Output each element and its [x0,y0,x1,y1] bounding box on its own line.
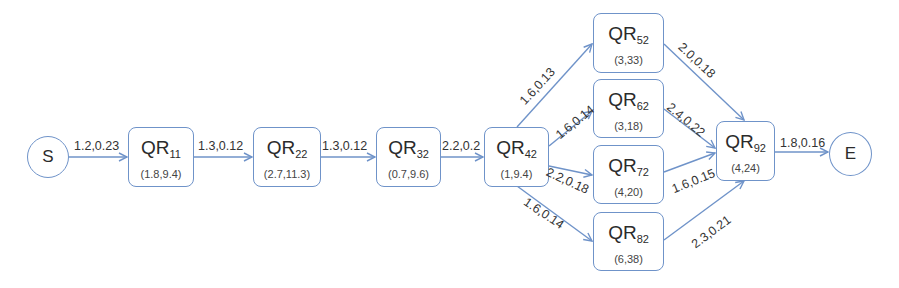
node-params: (4,20) [594,186,663,198]
node-qr52: QR52 (3,33) [593,13,664,73]
edge-label-qr32-qr42: 2.2,0.2 [442,139,480,153]
node-name: QR92 [717,131,774,159]
edge-label-s-qr11: 1.2,0.23 [74,139,119,153]
node-qr92: QR92 (4,24) [716,121,775,181]
start-node: S [27,136,69,178]
node-name: QR62 [594,89,663,117]
node-params: (2.7,11.3) [254,168,320,180]
node-name: QR82 [594,222,663,250]
node-params: (6,38) [594,253,663,265]
node-name: QR22 [254,137,320,165]
node-qr42: QR42 (1,9.4) [484,127,549,187]
edge-label-qr11-qr22: 1.3,0.12 [198,139,243,153]
node-name: QR11 [129,137,193,165]
node-params: (3,18) [594,120,663,132]
node-qr22: QR22 (2.7,11.3) [253,127,321,187]
node-params: (0.7,9.6) [377,168,440,180]
node-qr72: QR72 (4,20) [593,145,664,204]
node-qr11: QR11 (1.8,9.4) [128,127,194,187]
edge-label-qr92-e: 1.8,0.16 [780,136,825,150]
node-qr62: QR62 (3,18) [593,79,664,138]
end-node: E [829,132,872,176]
node-name: QR42 [485,137,548,165]
node-params: (1,9.4) [485,168,548,180]
end-label: E [845,144,856,164]
node-params: (1.8,9.4) [129,168,193,180]
edge-label-qr22-qr32: 1.3,0.12 [322,139,367,153]
node-qr82: QR82 (6,38) [593,212,664,271]
start-label: S [42,147,53,167]
node-qr32: QR32 (0.7,9.6) [376,127,441,187]
node-name: QR72 [594,155,663,183]
node-name: QR52 [594,23,663,51]
node-name: QR32 [377,137,440,165]
node-params: (4,24) [717,162,774,174]
node-params: (3,33) [594,54,663,66]
